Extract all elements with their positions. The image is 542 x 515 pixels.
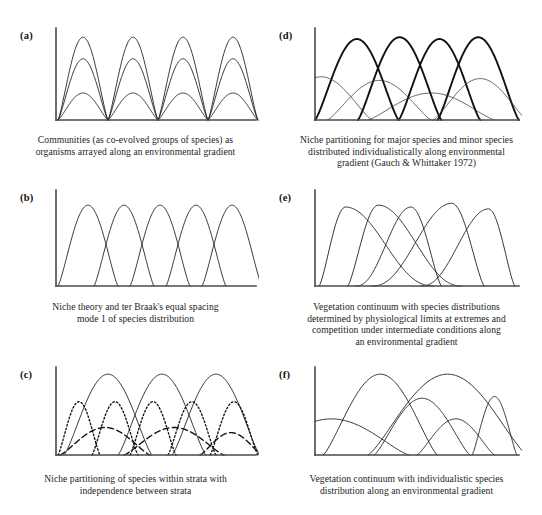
species-curve [327, 80, 431, 120]
species-curve [319, 207, 433, 286]
plot-c [46, 365, 258, 463]
plot-e [305, 188, 521, 294]
panel-label-e: (e) [279, 192, 291, 203]
figure-grid: (a) Communities (as co-evolved groups of… [0, 0, 542, 515]
panel-a: (a) Communities (as co-evolved groups of… [0, 0, 271, 170]
species-curve [166, 205, 226, 286]
panel-e: (e) Vegetation continuum with species di… [271, 170, 542, 355]
caption-line: Niche theory and ter Braak's equal spaci… [8, 301, 263, 313]
plot-svg-d [305, 26, 521, 128]
species-curve [421, 209, 515, 286]
panel-label-d: (d) [279, 30, 292, 41]
caption-line: Niche partitioning for major species and… [279, 134, 534, 146]
species-curve [433, 79, 527, 120]
species-curve [399, 39, 481, 120]
panel-label-c: (c) [20, 369, 32, 380]
species-curve [417, 419, 495, 455]
caption-line: Vegetation continuum with species distri… [279, 301, 534, 313]
caption-line: Vegetation continuum with individualisti… [279, 473, 534, 485]
species-curve [472, 397, 517, 455]
species-curve [58, 402, 100, 455]
panel-label-a: (a) [20, 30, 33, 41]
caption-line: independence between strata [8, 485, 263, 497]
plot-b [46, 188, 258, 294]
caption-f: Vegetation continuum with individualisti… [279, 473, 534, 496]
caption-line: distribution along an environmental grad… [279, 485, 534, 497]
species-curve [158, 37, 208, 120]
species-curve [270, 77, 372, 120]
plot-svg-f [305, 365, 521, 463]
caption-line: competition under intermediate condition… [279, 324, 534, 336]
caption-line: Communities (as co-evolved groups of spe… [8, 134, 263, 146]
plot-svg-b [46, 188, 258, 294]
plot-a [46, 26, 258, 128]
species-curve [130, 205, 190, 286]
plot-f [305, 365, 521, 463]
caption-line: Niche partitioning of species within str… [8, 473, 263, 485]
caption-b: Niche theory and ter Braak's equal spaci… [8, 301, 263, 324]
panel-f: (f) Vegetation continuum with individual… [271, 355, 542, 515]
caption-c: Niche partitioning of species within str… [8, 473, 263, 496]
species-curve [208, 37, 258, 120]
species-curve [94, 205, 154, 286]
caption-d: Niche partitioning for major species and… [279, 134, 534, 169]
plot-svg-a [46, 26, 258, 128]
species-curve [202, 205, 262, 286]
species-curve [358, 37, 442, 120]
species-curve [368, 374, 527, 455]
panel-b: (b) Niche theory and ter Braak's equal s… [0, 170, 271, 355]
plot-svg-e [305, 188, 521, 294]
species-curve [108, 37, 158, 120]
caption-line: gradient (Gauch & Whittaker 1972) [279, 157, 534, 169]
caption-line: an environmental gradient [279, 336, 534, 348]
panel-label-b: (b) [20, 192, 33, 203]
species-curve [58, 37, 108, 120]
caption-line: determined by physiological limits at ex… [279, 313, 534, 325]
caption-line: organisms arrayed along an environmental… [8, 146, 263, 158]
species-curve [323, 374, 437, 455]
species-curve [374, 398, 470, 455]
species-curve [58, 205, 118, 286]
species-curve [64, 374, 152, 455]
species-curve [172, 374, 260, 455]
caption-a: Communities (as co-evolved groups of spe… [8, 134, 263, 157]
caption-line: mode 1 of species distribution [8, 313, 263, 325]
panel-label-f: (f) [279, 369, 290, 380]
species-curve [254, 419, 409, 455]
plot-svg-c [46, 365, 258, 463]
caption-line: distributed individualistically along en… [279, 146, 534, 158]
species-curve [210, 402, 258, 455]
plot-d [305, 26, 521, 128]
panel-d: (d) Niche partitioning for major species… [271, 0, 542, 170]
panel-c: (c) Niche partitioning of species within… [0, 355, 271, 515]
caption-e: Vegetation continuum with species distri… [279, 301, 534, 347]
